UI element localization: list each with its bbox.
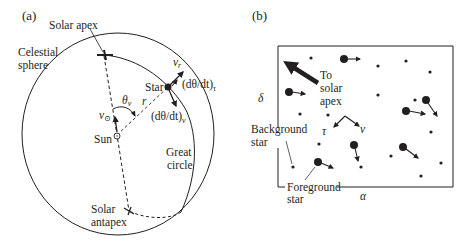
- theta-angle-arc: [113, 107, 135, 116]
- dtheta-v-label: (dθ/dt)v: [151, 110, 186, 125]
- to-solar-apex-label-1: To: [320, 69, 332, 81]
- solar-antapex-label-1: Solar: [91, 203, 115, 215]
- sun-label: Sun: [94, 133, 112, 145]
- panel-b: (b): [251, 8, 453, 205]
- radial-velocity-arrow: [168, 72, 183, 87]
- theta-v-label: θv: [122, 94, 132, 108]
- solar-apex-direction-arrow: [288, 64, 318, 83]
- foreground-star-label-2: star: [287, 193, 304, 205]
- background-stars: [291, 56, 442, 177]
- celestial-sphere-label-2: sphere: [18, 59, 48, 72]
- solar-motion-figure: (a): [0, 0, 468, 244]
- foreground-star-leader: [305, 167, 315, 180]
- solar-antapex-label-2: antapex: [91, 216, 127, 229]
- solar-apex-leader: [90, 29, 103, 52]
- panel-b-label: (b): [252, 8, 267, 23]
- r-label: r: [142, 95, 147, 107]
- dtheta-tau-label: (dθ/dt)τ: [182, 78, 217, 93]
- tau-v-component-arrows: [334, 116, 359, 127]
- star-label: Star: [145, 81, 164, 93]
- solar-apex-cross: [97, 50, 113, 60]
- background-star-leader: [286, 141, 292, 164]
- to-solar-apex-label-2: solar: [320, 82, 343, 94]
- great-circle-label-2: circle: [167, 159, 193, 171]
- alpha-axis-label: α: [360, 190, 367, 202]
- solar-antapex-cross: [124, 207, 134, 215]
- dtheta-v-arrow: [169, 90, 176, 106]
- to-solar-apex-label-3: apex: [320, 95, 342, 108]
- sky-frame: [278, 46, 453, 187]
- v-sun-label: v⊙: [99, 109, 111, 123]
- background-star-label-2: star: [251, 136, 268, 148]
- sky-frame-lower-left: [278, 148, 285, 187]
- delta-axis-label: δ: [258, 92, 264, 104]
- tau-label: τ: [322, 125, 327, 137]
- v-label: v: [360, 123, 366, 135]
- great-circle-label-1: Great: [166, 146, 192, 158]
- foreground-stars: [285, 55, 437, 168]
- celestial-sphere-label-1: Celestial: [18, 46, 58, 58]
- background-star-label-1: Background: [251, 123, 307, 136]
- panel-a: (a): [18, 8, 217, 235]
- panel-a-label: (a): [22, 8, 36, 23]
- solar-apex-label: Solar apex: [49, 19, 98, 32]
